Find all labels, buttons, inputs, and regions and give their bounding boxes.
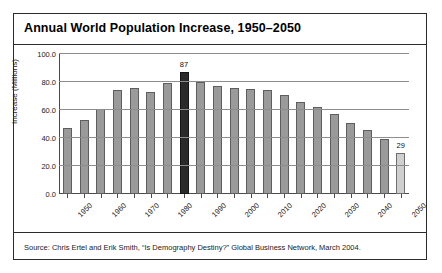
bar-1975 (146, 92, 155, 194)
bar-1970 (130, 88, 139, 194)
bar-1955 (80, 120, 89, 194)
x-tick (167, 194, 168, 198)
x-tick (267, 194, 268, 198)
gridline (59, 109, 409, 110)
bar-1990 (196, 82, 205, 194)
x-tick (217, 194, 218, 198)
bar-2035 (346, 123, 355, 194)
bar-2050 (396, 153, 405, 194)
bar-2040 (363, 130, 372, 194)
bar-2010 (263, 90, 272, 194)
x-tick (234, 194, 235, 198)
x-tick-label: 2040 (376, 201, 394, 219)
page-title: Annual World Population Increase, 1950–2… (24, 21, 301, 35)
x-tick (184, 194, 185, 198)
x-tick-label: 1990 (210, 201, 228, 219)
x-tick-label: 1980 (176, 201, 194, 219)
x-tick (251, 194, 252, 198)
bar-2020 (296, 102, 305, 194)
y-tick-label: 40.0 (41, 134, 56, 143)
gridline (59, 165, 409, 166)
x-tick (201, 194, 202, 198)
x-tick-label: 1970 (143, 201, 161, 219)
x-tick-label: 2000 (243, 201, 261, 219)
chart-figure: Annual World Population Increase, 1950–2… (13, 13, 427, 260)
source-note: Source: Chris Ertel and Erik Smith, “Is … (24, 243, 361, 252)
x-tick (351, 194, 352, 198)
x-tick (67, 194, 68, 198)
x-tick (317, 194, 318, 198)
x-tick (84, 194, 85, 198)
x-tick-label: 2030 (343, 201, 361, 219)
y-tick-label: 20.0 (41, 162, 56, 171)
x-axis-ticks (59, 194, 409, 200)
x-tick (117, 194, 118, 198)
bar-value-label: 29 (396, 141, 404, 150)
gridline (59, 81, 409, 82)
bar-2025 (313, 107, 322, 194)
bar-2005 (246, 89, 255, 194)
bar-1985 (180, 72, 189, 194)
x-tick (401, 194, 402, 198)
x-tick (367, 194, 368, 198)
y-axis-ticks: 0.020.040.060.080.0100.0 (14, 54, 56, 194)
y-tick-label: 0.0 (46, 190, 56, 199)
x-tick-label: 2020 (310, 201, 328, 219)
bar-1960 (96, 109, 105, 194)
x-tick (284, 194, 285, 198)
y-tick-label: 60.0 (41, 106, 56, 115)
y-tick-label: 100.0 (37, 50, 56, 59)
x-tick (384, 194, 385, 198)
bar-1950 (63, 128, 72, 194)
y-tick-label: 80.0 (41, 78, 56, 87)
x-tick (151, 194, 152, 198)
bar-2030 (330, 114, 339, 194)
bar-1965 (113, 90, 122, 194)
x-tick-label: 1950 (76, 201, 94, 219)
x-tick (134, 194, 135, 198)
bar-2000 (230, 88, 239, 194)
x-tick (101, 194, 102, 198)
gridline (59, 53, 409, 54)
bar-value-label: 87 (180, 60, 188, 69)
gridline (59, 137, 409, 138)
bar-1980 (163, 83, 172, 194)
title-divider (14, 44, 426, 45)
bar-2045 (380, 139, 389, 194)
source-divider (14, 232, 426, 233)
x-tick-label: 2050 (410, 201, 428, 219)
x-tick (301, 194, 302, 198)
bar-series: 8729 (59, 54, 409, 194)
bar-1995 (213, 86, 222, 194)
plot-area: 8729 (59, 54, 409, 194)
x-tick (334, 194, 335, 198)
x-tick-label: 1960 (110, 201, 128, 219)
x-tick-label: 2010 (276, 201, 294, 219)
